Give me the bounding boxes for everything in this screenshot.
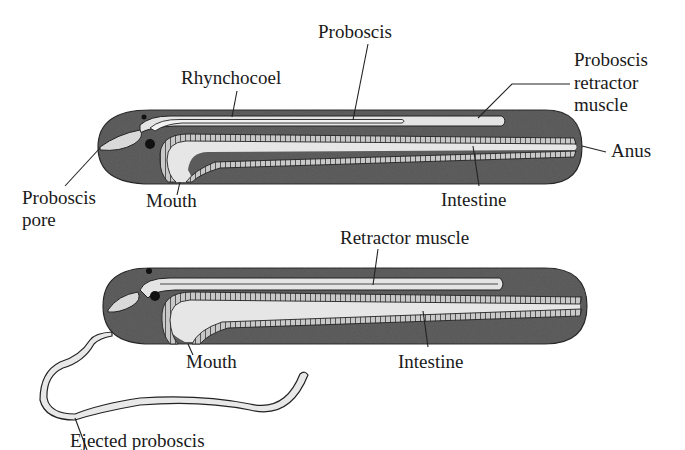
worm-everted (40, 268, 587, 420)
label-mouth-top: Mouth (146, 190, 197, 211)
label-anus: Anus (611, 140, 651, 161)
label-mouth-bottom: Mouth (186, 351, 237, 372)
label-retractor-3: muscle (574, 94, 628, 115)
cerebral-ganglion-dorsal (146, 268, 152, 274)
label-retractor-2: retractor (574, 72, 639, 93)
label-rhynchocoel: Rhynchocoel (181, 67, 281, 88)
cerebral-ganglion-ventral (145, 139, 155, 149)
worm-retracted (98, 110, 582, 184)
cerebral-ganglion-dorsal (142, 115, 147, 120)
label-pore-2: pore (22, 209, 56, 230)
label-ejected-proboscis: Ejected proboscis (70, 430, 205, 450)
label-retractor-muscle: Retractor muscle (340, 227, 469, 248)
label-pore-1: Proboscis (22, 187, 96, 208)
label-proboscis: Proboscis (318, 21, 392, 42)
nemertean-diagram: Proboscis Rhynchocoel Proboscis retracto… (0, 0, 685, 450)
cerebral-ganglion-ventral (150, 291, 160, 301)
label-intestine-bottom: Intestine (398, 351, 463, 372)
label-intestine-top: Intestine (441, 189, 506, 210)
ejected-proboscis (40, 332, 308, 420)
label-retractor-1: Proboscis (574, 49, 648, 70)
